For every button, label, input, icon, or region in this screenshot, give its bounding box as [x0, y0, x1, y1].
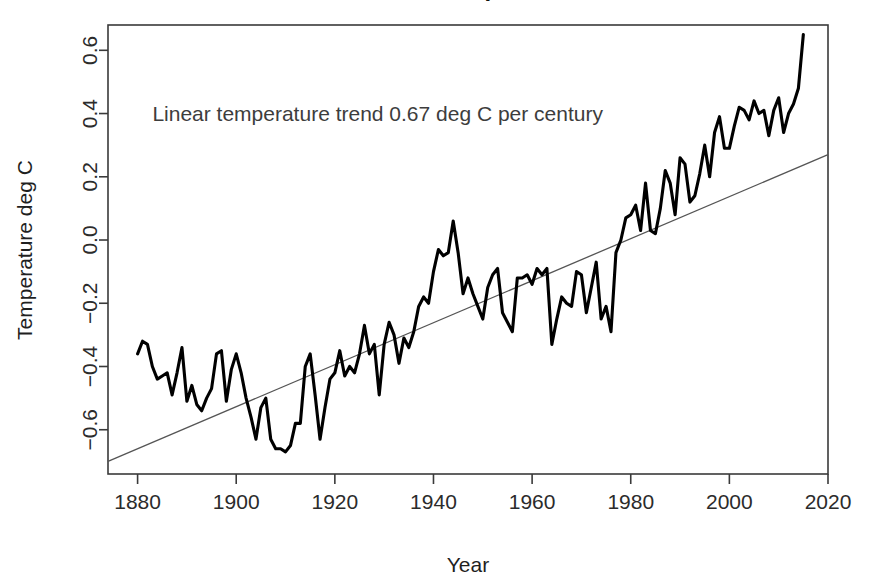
temperature-series-line: [138, 34, 804, 451]
y-tick-label: −0.2: [78, 283, 101, 324]
x-axis-title: Year: [447, 553, 489, 576]
y-tick-label: 0.4: [78, 99, 101, 129]
x-tick-label: 1920: [311, 490, 358, 513]
x-tick-label: 1880: [114, 490, 161, 513]
y-tick-label: 0.6: [78, 36, 101, 65]
y-tick-label: −0.4: [78, 345, 101, 387]
x-axis-ticks: 18801900192019401960198020002020: [114, 474, 851, 513]
plot-frame: [108, 25, 828, 474]
x-tick-label: 1940: [410, 490, 457, 513]
temperature-anomaly-chart: Global Land and Ocean Temperature Anomal…: [0, 0, 870, 587]
chart-title: Global Land and Ocean Temperature Anomal…: [162, 0, 707, 1]
x-tick-label: 2020: [805, 490, 852, 513]
trend-annotation-label: Linear temperature trend 0.67 deg C per …: [152, 102, 603, 125]
x-tick-label: 1900: [213, 490, 260, 513]
y-axis-ticks: −0.6−0.4−0.20.00.20.40.6: [78, 36, 108, 451]
linear-trend-line: [108, 155, 828, 462]
y-tick-label: 0.0: [78, 225, 101, 254]
y-tick-label: 0.2: [78, 162, 101, 191]
x-tick-label: 1980: [607, 490, 654, 513]
y-tick-label: −0.6: [78, 409, 101, 450]
y-axis-title: Temperature deg C: [13, 160, 36, 340]
chart-canvas: Global Land and Ocean Temperature Anomal…: [0, 0, 870, 587]
x-tick-label: 2000: [706, 490, 753, 513]
x-tick-label: 1960: [509, 490, 556, 513]
